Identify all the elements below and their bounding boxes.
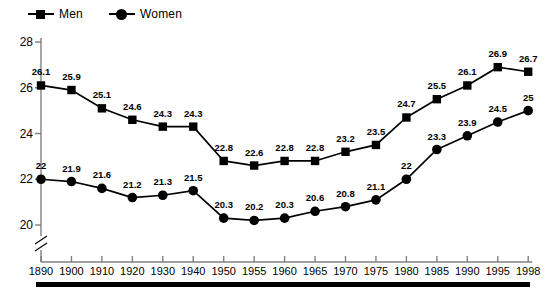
data-point-marker bbox=[250, 161, 258, 169]
data-point-label: 21.6 bbox=[87, 170, 117, 180]
bottom-rule bbox=[36, 282, 530, 287]
data-point-label: 20.3 bbox=[209, 200, 239, 210]
data-point-marker bbox=[493, 117, 503, 127]
data-point-marker bbox=[97, 184, 107, 194]
data-point-marker bbox=[523, 106, 533, 116]
data-point-marker bbox=[432, 145, 442, 155]
data-point-label: 26.1 bbox=[452, 67, 482, 77]
data-point-label: 21.1 bbox=[361, 182, 391, 192]
y-axis-tick-label: 26 bbox=[7, 82, 33, 94]
data-point-marker bbox=[188, 186, 198, 196]
data-point-label: 22 bbox=[26, 161, 56, 171]
data-point-label: 24.7 bbox=[391, 99, 421, 109]
data-point-marker bbox=[280, 213, 290, 223]
data-point-marker bbox=[128, 193, 138, 203]
data-point-label: 21.5 bbox=[178, 173, 208, 183]
data-point-marker bbox=[371, 195, 381, 205]
data-point-label: 24.3 bbox=[178, 109, 208, 119]
data-point-marker bbox=[98, 104, 106, 112]
x-axis-tick-label: 1998 bbox=[508, 265, 545, 277]
data-point-label: 21.2 bbox=[117, 180, 147, 190]
data-point-marker bbox=[249, 216, 259, 226]
data-point-marker bbox=[220, 157, 228, 165]
data-point-marker bbox=[158, 190, 168, 200]
data-point-label: 25.1 bbox=[87, 90, 117, 100]
data-point-marker bbox=[219, 213, 229, 223]
data-point-label: 23.5 bbox=[361, 127, 391, 137]
y-axis-break-icon bbox=[35, 236, 47, 251]
data-point-label: 26.1 bbox=[26, 67, 56, 77]
data-point-label: 26.7 bbox=[513, 54, 543, 64]
data-point-marker bbox=[402, 174, 412, 184]
data-point-label: 20.8 bbox=[331, 189, 361, 199]
data-point-label: 22.8 bbox=[209, 143, 239, 153]
data-point-label: 24.3 bbox=[148, 109, 178, 119]
data-point-marker bbox=[341, 148, 349, 156]
data-point-marker bbox=[280, 157, 288, 165]
data-point-marker bbox=[189, 122, 197, 130]
data-point-label: 21.3 bbox=[148, 177, 178, 187]
data-point-label: 25.5 bbox=[422, 81, 452, 91]
data-point-label: 22.6 bbox=[239, 148, 269, 158]
data-point-marker bbox=[433, 95, 441, 103]
data-point-marker bbox=[494, 63, 502, 71]
data-point-label: 20.2 bbox=[239, 202, 269, 212]
data-point-label: 20.6 bbox=[300, 193, 330, 203]
y-axis-tick-label: 20 bbox=[7, 219, 33, 231]
data-point-marker bbox=[37, 81, 45, 89]
data-point-marker bbox=[67, 177, 77, 187]
data-point-marker bbox=[310, 206, 320, 216]
data-point-label: 23.9 bbox=[452, 118, 482, 128]
data-point-marker bbox=[341, 202, 351, 212]
data-point-label: 25 bbox=[513, 93, 543, 103]
data-point-label: 20.3 bbox=[270, 200, 300, 210]
data-point-label: 23.2 bbox=[331, 134, 361, 144]
data-point-label: 21.9 bbox=[56, 164, 86, 174]
data-point-marker bbox=[372, 141, 380, 149]
data-point-marker bbox=[402, 113, 410, 121]
data-point-marker bbox=[311, 157, 319, 165]
data-point-label: 26.9 bbox=[483, 49, 513, 59]
data-point-marker bbox=[67, 86, 75, 94]
data-point-label: 24.5 bbox=[483, 104, 513, 114]
data-point-label: 22.8 bbox=[270, 143, 300, 153]
data-point-label: 22.8 bbox=[300, 143, 330, 153]
data-point-marker bbox=[463, 131, 473, 141]
data-point-marker bbox=[159, 122, 167, 130]
y-axis-tick-label: 24 bbox=[7, 128, 33, 140]
data-point-label: 25.9 bbox=[56, 72, 86, 82]
data-point-marker bbox=[524, 68, 532, 76]
y-axis-tick-label: 28 bbox=[7, 36, 33, 48]
y-axis-tick-label: 22 bbox=[7, 173, 33, 185]
data-point-label: 22 bbox=[391, 161, 421, 171]
data-point-label: 24.6 bbox=[117, 102, 147, 112]
data-point-label: 23.3 bbox=[422, 132, 452, 142]
data-point-marker bbox=[463, 81, 471, 89]
data-point-marker bbox=[128, 116, 136, 124]
data-point-marker bbox=[36, 174, 46, 184]
